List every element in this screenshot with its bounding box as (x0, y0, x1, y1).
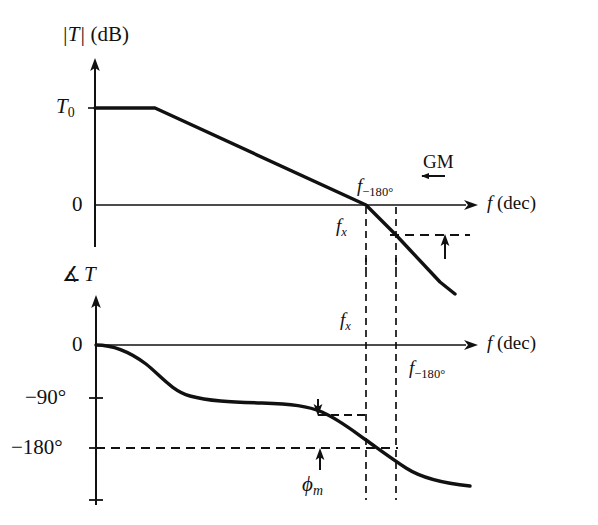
magnitude-axis-caption: |T| (dB) (62, 24, 129, 45)
phase-x-axis-label-unit: (dec) (497, 332, 536, 353)
phase-panel (89, 258, 478, 505)
phase-ytick-label-minus180: −180° (11, 437, 63, 458)
gain-margin-label: GM (423, 152, 454, 171)
phase-fx-label: fx (340, 310, 351, 333)
t0-subscript: 0 (68, 105, 75, 120)
phase-f180-label-sub: −180° (414, 367, 445, 381)
magnitude-fx-label: fx (336, 216, 347, 239)
phase-margin-label-var: ϕ (302, 472, 313, 496)
magnitude-fx-label-sub: x (341, 225, 347, 239)
phase-margin-label: ϕm (302, 474, 323, 498)
phase-ytick-label-zero: 0 (72, 334, 83, 355)
angle-icon: ∡ (62, 262, 81, 286)
magnitude-x-axis-label: f (dec) (487, 193, 536, 212)
magnitude-axis-caption-unit: (dB) (90, 22, 129, 46)
phase-fx-label-sub: x (345, 319, 351, 333)
bode-plot-figure: |T| (dB) T0 0 f (dec) GM f−180° fx ∡T 0 … (0, 0, 598, 525)
phase-margin-label-sub: m (313, 483, 323, 498)
phase-ytick-label-minus90: −90° (25, 387, 66, 408)
magnitude-f180-label-sub: −180° (362, 185, 393, 199)
phase-x-axis-label: f (dec) (487, 333, 536, 352)
magnitude-panel (88, 58, 478, 294)
magnitude-curve (95, 108, 455, 294)
magnitude-x-axis-arrowhead (464, 200, 478, 210)
phase-axis-caption: ∡T (62, 264, 96, 285)
magnitude-f180-label: f−180° (357, 176, 393, 199)
phase-f180-label: f−180° (409, 358, 445, 381)
magnitude-axis-caption-mag: |T| (62, 22, 85, 46)
magnitude-ytick-label-zero: 0 (72, 194, 83, 215)
magnitude-ytick-label-t0: T0 (56, 96, 75, 120)
magnitude-x-axis-label-unit: (dec) (497, 192, 536, 213)
phase-x-axis-arrowhead (464, 340, 478, 350)
phase-axis-caption-var: T (84, 262, 96, 286)
t0-base: T (56, 94, 68, 118)
